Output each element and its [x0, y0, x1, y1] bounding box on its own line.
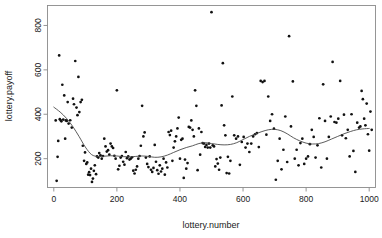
- x-tick-label: 800: [299, 194, 313, 204]
- data-point: [147, 166, 150, 169]
- data-point: [299, 142, 302, 145]
- data-point: [90, 167, 93, 170]
- data-point: [75, 106, 78, 109]
- data-point: [124, 151, 127, 154]
- data-point: [303, 163, 306, 166]
- data-point: [250, 142, 253, 145]
- data-point: [196, 169, 199, 172]
- data-point: [174, 140, 177, 143]
- data-point: [360, 90, 363, 93]
- data-point: [290, 125, 293, 128]
- data-point: [136, 165, 139, 168]
- data-point: [354, 171, 357, 174]
- data-point: [179, 157, 182, 160]
- data-point: [335, 121, 338, 124]
- data-point: [350, 113, 353, 116]
- data-point: [199, 153, 202, 156]
- data-point: [152, 167, 155, 170]
- data-point: [73, 103, 76, 106]
- data-point: [362, 98, 365, 101]
- data-point: [81, 98, 84, 101]
- data-point: [223, 124, 226, 127]
- x-axis-title: lottery.number: [183, 220, 240, 230]
- data-point: [103, 137, 106, 140]
- data-point: [151, 171, 154, 174]
- data-point: [267, 95, 270, 98]
- data-point: [165, 161, 168, 164]
- data-point: [176, 127, 179, 130]
- data-point: [359, 125, 362, 128]
- data-point: [337, 117, 340, 120]
- data-point: [239, 164, 242, 167]
- data-point: [114, 157, 117, 160]
- data-point: [237, 135, 240, 138]
- x-tick-label: 400: [173, 194, 187, 204]
- data-point: [72, 97, 75, 100]
- data-point: [91, 181, 94, 184]
- data-point: [305, 157, 308, 160]
- data-point: [117, 168, 120, 171]
- data-point: [356, 121, 359, 124]
- data-point: [132, 169, 135, 172]
- data-point: [225, 172, 228, 175]
- data-point: [346, 128, 349, 131]
- data-point: [189, 126, 192, 129]
- data-point: [276, 160, 279, 163]
- data-point: [265, 133, 268, 136]
- data-point: [123, 163, 126, 166]
- data-point: [284, 115, 287, 118]
- data-point: [286, 161, 289, 164]
- data-point: [205, 144, 208, 147]
- data-point: [181, 137, 184, 140]
- data-point: [282, 148, 285, 151]
- data-point: [200, 131, 203, 134]
- data-point: [263, 80, 266, 83]
- data-point: [195, 104, 198, 107]
- data-point: [343, 113, 346, 116]
- data-point: [246, 142, 249, 145]
- x-tick-label: 0: [51, 194, 56, 204]
- data-point: [233, 134, 236, 137]
- data-point: [293, 157, 296, 160]
- data-point: [229, 160, 232, 163]
- data-point: [55, 179, 58, 182]
- data-point: [210, 11, 213, 14]
- x-tick-label: 200: [110, 194, 124, 204]
- data-point: [213, 145, 216, 148]
- data-point: [93, 164, 96, 167]
- x-tick-label: 1000: [360, 194, 379, 204]
- scatter-plot-figure: 02004006008001000 200400600800 lottery.n…: [0, 0, 382, 238]
- data-point: [257, 146, 260, 149]
- data-point: [118, 164, 121, 167]
- data-point: [271, 113, 274, 116]
- data-point: [274, 178, 277, 181]
- data-point: [56, 156, 59, 159]
- data-point: [278, 137, 281, 140]
- plot-background: [0, 0, 382, 238]
- data-point: [327, 136, 330, 139]
- data-point: [109, 142, 112, 145]
- data-point: [244, 146, 247, 149]
- data-point: [57, 140, 60, 143]
- data-point: [322, 83, 325, 86]
- data-point: [209, 146, 212, 149]
- data-point: [140, 144, 143, 147]
- data-point: [100, 157, 103, 160]
- data-point: [61, 83, 64, 86]
- data-point: [310, 128, 313, 131]
- data-point: [186, 162, 189, 165]
- data-point: [231, 95, 234, 98]
- data-point: [364, 124, 367, 127]
- data-point: [324, 120, 327, 123]
- data-point: [312, 136, 315, 139]
- data-point: [345, 137, 348, 140]
- data-point: [92, 177, 95, 180]
- data-point: [185, 167, 188, 170]
- data-point: [76, 114, 79, 117]
- data-point: [88, 171, 91, 174]
- data-point: [122, 160, 125, 163]
- data-point: [363, 117, 366, 120]
- data-point: [222, 62, 225, 65]
- data-point: [157, 172, 160, 175]
- x-tick-label: 600: [236, 194, 250, 204]
